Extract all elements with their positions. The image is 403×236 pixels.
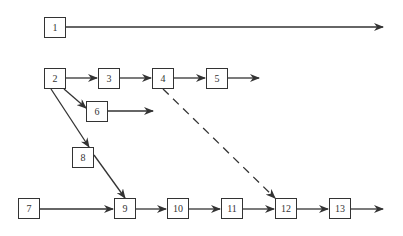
node-label: 13 (335, 203, 345, 214)
node-label: 3 (107, 73, 112, 84)
edge-4-12-dashed (163, 89, 275, 198)
node-6: 6 (86, 101, 108, 122)
node-label: 10 (173, 203, 183, 214)
edge-8-9 (94, 155, 125, 198)
edge-2-8 (51, 89, 89, 147)
node-label: 9 (123, 203, 128, 214)
node-12: 12 (275, 198, 297, 219)
node-label: 7 (27, 203, 32, 214)
node-8: 8 (72, 147, 94, 168)
node-label: 5 (215, 73, 220, 84)
node-7: 7 (18, 198, 40, 219)
node-label: 6 (95, 106, 100, 117)
node-11: 11 (221, 198, 243, 219)
node-label: 11 (227, 203, 237, 214)
node-label: 1 (53, 22, 58, 33)
node-4: 4 (152, 68, 174, 89)
node-label: 8 (81, 152, 86, 163)
node-2: 2 (44, 68, 66, 89)
node-label: 12 (281, 203, 291, 214)
node-3: 3 (98, 68, 120, 89)
node-5: 5 (206, 68, 228, 89)
node-10: 10 (167, 198, 189, 219)
node-label: 4 (161, 73, 166, 84)
node-13: 13 (329, 198, 351, 219)
edge-2-6 (64, 89, 86, 108)
node-9: 9 (114, 198, 136, 219)
node-label: 2 (53, 73, 58, 84)
node-1: 1 (44, 17, 66, 38)
